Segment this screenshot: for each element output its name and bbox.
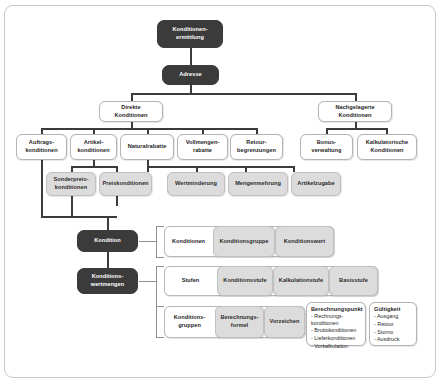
detail-item-label: Konditionsgruppe xyxy=(220,238,269,246)
node-label: Auftrags- konditionen xyxy=(25,139,57,154)
node-label: Mengenmehrung xyxy=(235,180,281,188)
bracket-row1-top xyxy=(156,226,164,227)
detail-label-text: Konditions- gruppen xyxy=(174,314,206,329)
diagram-canvas: Konditionen- ermittlung Adresse Direkte … xyxy=(0,0,443,387)
node-adresse[interactable]: Adresse xyxy=(162,65,219,85)
connector-root-adresse xyxy=(190,48,192,65)
listbox-item: Ausgang xyxy=(374,313,413,321)
bracket-row3-bottom xyxy=(156,337,164,338)
node-label: Retour- begrenzungen xyxy=(237,139,276,154)
listbox-item: Lieferkonditionen xyxy=(311,335,362,343)
detail-label-text: Konditionen xyxy=(172,238,205,246)
listbox-item: Bruttokonditionen xyxy=(311,327,362,335)
listbox-title: Gültigkeit xyxy=(374,306,413,312)
listbox-item: Storno xyxy=(374,329,413,337)
node-label: Vollmengen- rabatte xyxy=(186,139,220,154)
node-wertminderung[interactable]: Wertminderung xyxy=(167,172,225,196)
detail-item-berechnungsformel[interactable]: Berechnungs- formel xyxy=(215,306,264,338)
node-retourbegrenzungen[interactable]: Retour- begrenzungen xyxy=(230,134,283,160)
connector-level3-left-bus xyxy=(41,128,258,130)
node-kondition[interactable]: Kondition xyxy=(77,230,138,252)
detail-item-label: Konditionswert xyxy=(284,238,325,246)
connector-to-direkte xyxy=(131,93,133,101)
connector-to-nachgelagerte xyxy=(355,93,357,101)
detail-item-label: Konditionsstufe xyxy=(223,277,266,285)
node-direkte-konditionen[interactable]: Direkte Konditionen xyxy=(99,101,163,122)
connector-natural-stub xyxy=(147,166,149,172)
listbox-items: Rechnungs- konditionen Bruttokonditionen… xyxy=(311,313,362,351)
node-sonderpreiskonditionen[interactable]: Sonderpreis- konditionen xyxy=(46,172,96,196)
node-auftragskonditionen[interactable]: Auftrags- konditionen xyxy=(16,134,67,160)
node-label: Direkte Konditionen xyxy=(114,104,147,119)
node-label: Konditionen- ermittlung xyxy=(172,26,207,41)
node-vollmengenrabatte[interactable]: Vollmengen- rabatte xyxy=(177,134,228,160)
detail-item-label: Berechnungs- formel xyxy=(220,314,258,329)
node-label: Naturalrabatte xyxy=(128,143,167,151)
detail-item-kalkulationstufe[interactable]: Kalkulationstufe xyxy=(273,266,329,296)
detail-label-text: Stufen xyxy=(182,277,200,285)
connector-merge-to-kondition xyxy=(107,216,109,230)
node-mengenmehrung[interactable]: Mengenmehrung xyxy=(228,172,288,196)
listbox-items: Ausgang Retour Storno Ausdruck xyxy=(374,313,413,344)
connector-natural-bus xyxy=(147,166,293,168)
bracket-row3-left xyxy=(156,306,164,307)
node-kalkulatorische-konditionen[interactable]: Kalkulatorische Konditionen xyxy=(357,134,417,160)
listbox-title: Berechnungspunkt xyxy=(311,306,362,312)
detail-item-label: Kalkulationstufe xyxy=(279,277,323,285)
node-label: Adresse xyxy=(179,71,201,79)
detail-label-stufen: Stufen xyxy=(164,266,217,296)
connector-level2-bus xyxy=(131,93,357,95)
listbox-item: Vorkalkulation xyxy=(311,343,362,351)
bracket-row1-bottom xyxy=(156,257,164,258)
bracket-kwm-row xyxy=(139,281,157,282)
bracket-row2-top xyxy=(156,266,164,267)
connector-artikel-bus xyxy=(71,166,116,168)
listbox-berechnungspunkt[interactable]: Berechnungspunkt Rechnungs- konditionen … xyxy=(306,302,366,346)
connector-kondition-konditionswertmengen xyxy=(107,252,109,268)
listbox-item: Ausdruck xyxy=(374,336,413,344)
connector-merge-bus xyxy=(41,216,117,218)
detail-item-konditionsgruppe[interactable]: Konditionsgruppe xyxy=(213,226,275,257)
listbox-item: Rechnungs- konditionen xyxy=(311,313,362,327)
detail-item-label: Vorzeichen xyxy=(270,318,300,326)
node-label: Artikelzugabe xyxy=(297,180,334,188)
node-bonusverwaltung[interactable]: Bonus- verwaltung xyxy=(300,134,353,160)
node-nachgelagerte-konditionen[interactable]: Nachgelagerte Konditionen xyxy=(318,101,392,122)
detail-item-label: Basisstufe xyxy=(339,277,368,285)
node-konditionswertmengen[interactable]: Konditions- wertmengen xyxy=(77,268,138,294)
detail-label-konditionen: Konditionen xyxy=(164,226,213,257)
bracket-row3-vert xyxy=(156,306,157,338)
node-label: Bonus- verwaltung xyxy=(311,139,341,154)
connector-to-artikelzugabe xyxy=(293,166,295,172)
node-label: Artikel- konditionen xyxy=(77,139,109,154)
node-preiskonditionen[interactable]: Preiskonditionen xyxy=(99,172,152,196)
connector-left-rail xyxy=(41,160,43,218)
node-label: Kalkulatorische Konditionen xyxy=(366,139,408,154)
listbox-gueltigkeit[interactable]: Gültigkeit Ausgang Retour Storno Ausdruc… xyxy=(369,302,417,346)
node-label: Preiskonditionen xyxy=(102,180,148,188)
listbox-item: Retour xyxy=(374,321,413,329)
node-label: Konditions- wertmengen xyxy=(91,273,124,288)
node-naturalrabatte[interactable]: Naturalrabatte xyxy=(120,134,174,160)
node-artikelzugabe[interactable]: Artikelzugabe xyxy=(291,172,341,196)
connector-level3-right-bus xyxy=(326,128,387,130)
detail-item-basisstufe[interactable]: Basisstufe xyxy=(329,266,378,296)
detail-item-konditionswert[interactable]: Konditionswert xyxy=(275,226,334,257)
bracket-kondition-row1 xyxy=(139,241,157,242)
node-label: Wertminderung xyxy=(175,180,217,188)
detail-item-konditionsstufe[interactable]: Konditionsstufe xyxy=(217,266,273,296)
detail-item-vorzeichen[interactable]: Vorzeichen xyxy=(264,306,305,338)
node-label: Kondition xyxy=(94,237,121,245)
connector-preis-down xyxy=(116,196,118,206)
node-konditionenermittlung[interactable]: Konditionen- ermittlung xyxy=(157,20,223,48)
node-artikelkonditionen[interactable]: Artikel- konditionen xyxy=(70,134,117,160)
connector-sonderpreis-down xyxy=(71,196,73,218)
detail-label-konditionsgruppen: Konditions- gruppen xyxy=(164,306,215,338)
node-label: Sonderpreis- konditionen xyxy=(53,176,88,191)
bracket-kondition-vert xyxy=(156,226,157,258)
node-label: Nachgelagerte Konditionen xyxy=(335,104,374,119)
